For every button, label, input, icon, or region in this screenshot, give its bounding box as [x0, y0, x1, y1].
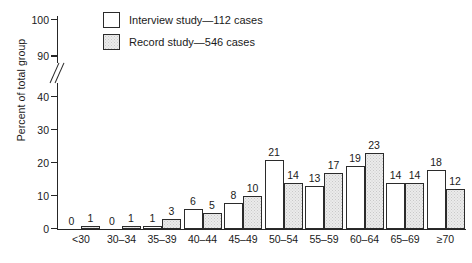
- bar-interview: [224, 203, 243, 229]
- bar-record: [203, 213, 222, 230]
- bar-interview: [386, 183, 405, 229]
- bar-value-label: 1: [150, 213, 156, 224]
- bar-group: 1812: [427, 0, 465, 229]
- bar-record: [405, 183, 424, 229]
- bar-value-label: 3: [169, 206, 175, 217]
- bar-value-label: 14: [390, 170, 402, 181]
- bar-group: 1414: [386, 0, 424, 229]
- bar-interview: [143, 226, 162, 229]
- bar-value-label: 23: [368, 140, 380, 151]
- bar-value-label: 8: [231, 190, 237, 201]
- bar-value-label: 1: [128, 213, 134, 224]
- bar-value-label: 13: [309, 173, 321, 184]
- bar-value-label: 12: [449, 176, 461, 187]
- bar-record: [284, 183, 303, 229]
- bar-value-label: 14: [287, 170, 299, 181]
- bar-value-label: 10: [247, 183, 259, 194]
- y-tick-label: 40: [19, 92, 49, 103]
- bar-interview: [427, 170, 446, 229]
- legend-swatch-record-icon: [103, 34, 120, 50]
- bar-value-label: 19: [349, 153, 361, 164]
- y-axis-title: Percent of total group: [15, 0, 27, 180]
- y-tick-label: 100: [19, 15, 49, 26]
- bar-interview: [346, 166, 365, 229]
- bar-value-label: 1: [88, 213, 94, 224]
- legend-label-record: Record study—546 cases: [129, 37, 255, 48]
- bar-value-label: 0: [109, 216, 115, 227]
- y-tick-label: 0: [19, 224, 49, 235]
- bar-record: [162, 219, 181, 229]
- bar-group: 01: [62, 0, 100, 229]
- bar-record: [81, 226, 100, 229]
- bar-record: [446, 189, 465, 229]
- bar-group: 2114: [265, 0, 303, 229]
- bar-value-label: 14: [409, 170, 421, 181]
- legend-item-interview: Interview study—112 cases: [103, 9, 263, 31]
- y-tick-label: 20: [19, 158, 49, 169]
- legend-label-interview: Interview study—112 cases: [129, 15, 263, 26]
- bar-interview: [265, 160, 284, 229]
- bar-value-label: 6: [190, 196, 196, 207]
- legend-swatch-interview-icon: [103, 12, 120, 28]
- bar-group: 1317: [305, 0, 343, 229]
- bar-value-label: 0: [69, 216, 75, 227]
- y-tick-label: 90: [19, 51, 49, 62]
- chart-legend: Interview study—112 cases Record study—5…: [103, 9, 263, 53]
- bar-group: 1923: [346, 0, 384, 229]
- bar-interview: [305, 186, 324, 229]
- bar-interview: [184, 209, 203, 229]
- bar-record: [324, 173, 343, 229]
- y-tick-label: 30: [19, 125, 49, 136]
- bar-value-label: 5: [209, 200, 215, 211]
- bar-chart: Percent of total group 01020304090100 01…: [0, 0, 472, 263]
- bar-value-label: 18: [430, 157, 442, 168]
- bar-value-label: 21: [268, 147, 280, 158]
- bar-record: [365, 153, 384, 229]
- bar-record: [122, 226, 141, 229]
- bar-record: [243, 196, 262, 229]
- y-tick-label: 10: [19, 191, 49, 202]
- legend-item-record: Record study—546 cases: [103, 31, 263, 53]
- bar-value-label: 17: [328, 160, 340, 171]
- x-category-label: ≥70: [418, 234, 472, 245]
